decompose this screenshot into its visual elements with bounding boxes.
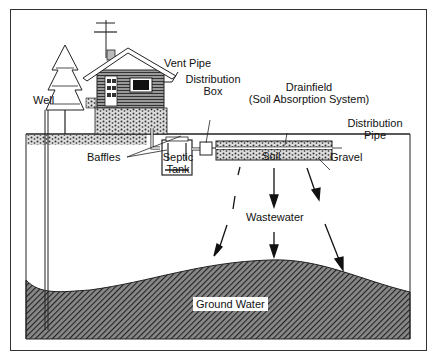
distribution-box-icon: [200, 142, 212, 155]
distribution-box-label-line2: Box: [183, 85, 243, 97]
septic-tank-label-line2: Tank: [158, 163, 198, 175]
well-label: Well: [33, 94, 54, 106]
house-icon: [83, 48, 176, 134]
distribution-pipe-label: Distribution Pipe: [340, 117, 410, 141]
distribution-box-label: Distribution Box: [183, 73, 243, 97]
drainfield-label-line1: Drainfield: [244, 81, 374, 93]
distribution-box-label-line1: Distribution: [183, 73, 243, 85]
tree-icon: [46, 45, 84, 134]
distribution-pipe-label-line1: Distribution: [340, 117, 410, 129]
baffles-label: Baffles: [87, 151, 120, 163]
drainfield-label-line2: (Soil Absorption System): [244, 93, 374, 105]
gravel-label: Gravel: [330, 151, 362, 163]
septic-tank-label: Septic Tank: [158, 151, 198, 175]
wastewater-label: Wastewater: [246, 211, 304, 223]
distribution-pipe-label-line2: Pipe: [340, 129, 410, 141]
drainfield-label: Drainfield (Soil Absorption System): [244, 81, 374, 105]
septic-tank-label-line1: Septic: [158, 151, 198, 163]
vent-pipe-label: Vent Pipe: [164, 57, 211, 69]
soil-label: Soil: [262, 150, 280, 162]
ground-water-label: Ground Water: [193, 297, 268, 311]
